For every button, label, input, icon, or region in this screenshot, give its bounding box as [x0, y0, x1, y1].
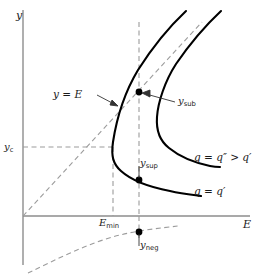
upper-discharge-curve-label: q = q″ > q′	[194, 152, 251, 163]
y-equals-e-leader-arrowhead	[110, 100, 118, 106]
y-critical-tick-label: yc	[4, 142, 13, 153]
y-sub-point-marker	[136, 89, 143, 96]
e-min-tick-label: Emin	[99, 218, 119, 229]
lower-discharge-curve-label: q = q′	[194, 186, 225, 197]
y-equals-e-asymptote-line	[23, 22, 202, 216]
plot-canvas	[0, 0, 261, 274]
energy-curves-group	[112, 11, 221, 196]
y-axis-label: y	[16, 10, 22, 21]
x-axis-label: E	[243, 219, 251, 230]
specific-energy-diagram: y E yc Emin y = E ysub ysup yneg q = q″ …	[0, 0, 261, 274]
y-neg-label: yneg	[140, 240, 158, 251]
y-sub-leader-arrowhead	[142, 90, 150, 97]
y-equals-e-label: y = E	[53, 89, 82, 100]
upper-discharge-curve	[157, 11, 221, 167]
y-sub-label: ysub	[178, 96, 196, 107]
axes-group	[23, 10, 250, 265]
y-sup-label: ysup	[140, 158, 158, 169]
